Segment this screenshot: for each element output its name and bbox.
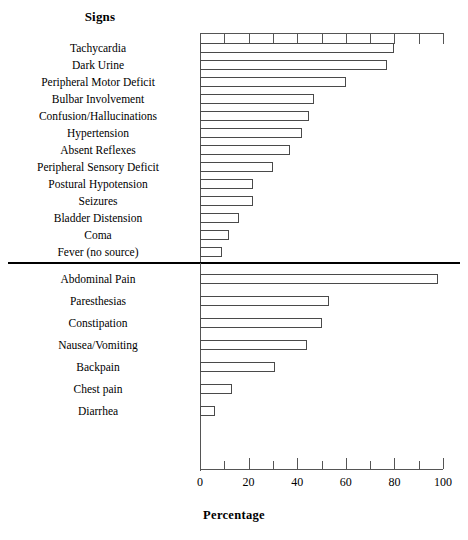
value-axis-tick xyxy=(224,461,225,469)
bar-category-label: Diarrhea xyxy=(0,403,196,420)
bar-category-label: Seizures xyxy=(0,193,196,210)
bar xyxy=(200,362,275,372)
bar-row: Backpain xyxy=(0,359,468,376)
value-axis-tick-label: 80 xyxy=(374,475,414,490)
bar xyxy=(200,384,232,394)
bar-category-label: Constipation xyxy=(0,315,196,332)
bar-row: Seizures xyxy=(0,193,468,210)
bar-category-label: Bladder Distension xyxy=(0,210,196,227)
bar-row: Fever (no source) xyxy=(0,244,468,261)
bar xyxy=(200,296,329,306)
value-axis-tick-label: 100 xyxy=(423,475,463,490)
bar xyxy=(200,274,438,284)
value-axis-tick-label: 60 xyxy=(326,475,366,490)
bar xyxy=(200,230,229,240)
bar-category-label: Peripheral Sensory Deficit xyxy=(0,159,196,176)
bar xyxy=(200,406,215,416)
bar xyxy=(200,77,346,87)
bar-row: Chest pain xyxy=(0,381,468,398)
bar-row: Abdominal Pain xyxy=(0,271,468,288)
bar xyxy=(200,111,309,121)
bar-row: Hypertension xyxy=(0,125,468,142)
value-axis-tick xyxy=(346,458,347,469)
value-axis-tick-label: 40 xyxy=(277,475,317,490)
bar xyxy=(200,213,239,223)
bar-row: Paresthesias xyxy=(0,293,468,310)
value-axis-tick xyxy=(200,458,201,469)
value-axis-tick xyxy=(394,458,395,469)
bar-row: Postural Hypotension xyxy=(0,176,468,193)
bar xyxy=(200,145,290,155)
value-axis-tick xyxy=(419,461,420,469)
signs-panel: Signs TachycardiaDark UrinePeripheral Mo… xyxy=(0,0,468,263)
bar-row: Tachycardia xyxy=(0,40,468,57)
value-axis-tick-label: 20 xyxy=(229,475,269,490)
bar xyxy=(200,162,273,172)
value-axis-tick xyxy=(297,458,298,469)
bar-row: Bladder Distension xyxy=(0,210,468,227)
bar xyxy=(200,60,387,70)
value-axis-tick xyxy=(370,461,371,469)
bar-category-label: Hypertension xyxy=(0,125,196,142)
bar-category-label: Bulbar Involvement xyxy=(0,91,196,108)
bar-category-label: Peripheral Motor Deficit xyxy=(0,74,196,91)
bar xyxy=(200,340,307,350)
bar-category-label: Nausea/Vomiting xyxy=(0,337,196,354)
bar-category-label: Fever (no source) xyxy=(0,244,196,261)
bar xyxy=(200,196,253,206)
value-axis-line xyxy=(200,469,443,470)
bar-row: Nausea/Vomiting xyxy=(0,337,468,354)
value-axis-tick xyxy=(273,461,274,469)
bar xyxy=(200,179,253,189)
bar-row: Dark Urine xyxy=(0,57,468,74)
bar-category-label: Paresthesias xyxy=(0,293,196,310)
bar-category-label: Coma xyxy=(0,227,196,244)
value-axis-tick xyxy=(249,458,250,469)
signs-section-title: Signs xyxy=(0,9,200,25)
value-axis-tick xyxy=(322,461,323,469)
value-axis-tick-label: 0 xyxy=(180,475,220,490)
bar-row: Coma xyxy=(0,227,468,244)
axis-title: Percentage xyxy=(0,508,468,523)
bar-row: Constipation xyxy=(0,315,468,332)
bar-category-label: Dark Urine xyxy=(0,57,196,74)
bar-category-label: Tachycardia xyxy=(0,40,196,57)
bar xyxy=(200,43,394,53)
bar-row: Peripheral Sensory Deficit xyxy=(0,159,468,176)
bar xyxy=(200,247,222,257)
bar-row: Diarrhea xyxy=(0,403,468,420)
bar xyxy=(200,94,314,104)
bar-row: Bulbar Involvement xyxy=(0,91,468,108)
bar-row: Confusion/Hallucinations xyxy=(0,108,468,125)
bar xyxy=(200,318,322,328)
bar-category-label: Abdominal Pain xyxy=(0,271,196,288)
bar-category-label: Postural Hypotension xyxy=(0,176,196,193)
bar-category-label: Absent Reflexes xyxy=(0,142,196,159)
bar-category-label: Backpain xyxy=(0,359,196,376)
bar xyxy=(200,128,302,138)
value-axis-tick xyxy=(443,458,444,469)
bar-row: Absent Reflexes xyxy=(0,142,468,159)
bar-category-label: Chest pain xyxy=(0,381,196,398)
bar-category-label: Confusion/Hallucinations xyxy=(0,108,196,125)
porphyria-signs-symptoms-chart: Signs TachycardiaDark UrinePeripheral Mo… xyxy=(0,0,468,540)
bar-row: Peripheral Motor Deficit xyxy=(0,74,468,91)
symptoms-panel: Symptoms Abdominal PainParesthesiasConst… xyxy=(0,263,468,540)
